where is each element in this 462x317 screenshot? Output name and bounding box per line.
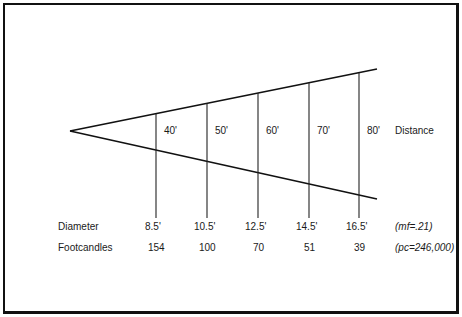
distance-label-50: 50' <box>215 125 228 137</box>
footcandles-heading: Footcandles <box>58 242 112 254</box>
diameter-value-50: 10.5' <box>194 221 215 233</box>
distance-label-70: 70' <box>317 125 330 137</box>
diameter-heading: Diameter <box>58 221 99 233</box>
distance-label-80: 80' <box>367 125 380 137</box>
beam-spread-diagram <box>0 0 462 317</box>
diameter-value-40: 8.5' <box>145 221 161 233</box>
pc-note: (pc=246,000) <box>395 242 454 254</box>
footcandles-value-70: 51 <box>304 242 315 254</box>
diameter-value-70: 14.5' <box>296 221 317 233</box>
footcandles-value-50: 100 <box>199 242 216 254</box>
diameter-value-80: 16.5' <box>346 221 367 233</box>
footcandles-value-60: 70 <box>253 242 264 254</box>
beam-lower-edge <box>70 131 377 199</box>
footcandles-value-80: 39 <box>354 242 365 254</box>
beam-upper-edge <box>70 69 377 131</box>
distance-label-60: 60' <box>266 125 279 137</box>
diameter-value-60: 12.5' <box>245 221 266 233</box>
footcandles-value-40: 154 <box>148 242 165 254</box>
distance-label-40: 40' <box>164 125 177 137</box>
mf-note: (mf=.21) <box>395 221 433 233</box>
distance-heading: Distance <box>395 125 434 137</box>
